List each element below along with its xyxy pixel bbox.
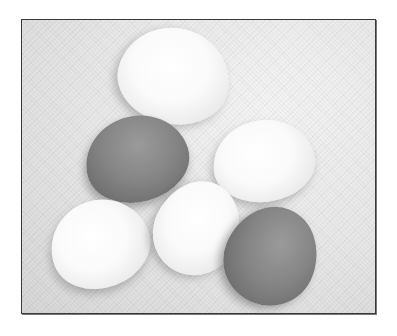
photo-frame [21, 19, 376, 314]
